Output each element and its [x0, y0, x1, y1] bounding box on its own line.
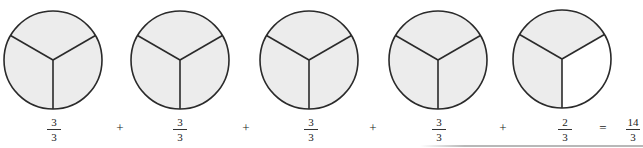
numerator: 3: [42, 116, 66, 128]
denominator: 3: [553, 131, 577, 143]
denominator: 3: [427, 131, 451, 143]
fraction-term-5: 2 3: [553, 116, 577, 143]
fraction-bar: [47, 129, 61, 130]
numerator: 3: [168, 116, 192, 128]
fraction-circle-4: [389, 11, 487, 109]
numerator: 2: [553, 116, 577, 128]
numerator: 3: [299, 116, 323, 128]
fraction-bar: [304, 129, 318, 130]
plus-sign: +: [495, 121, 511, 135]
equals-sign: =: [595, 121, 611, 135]
denominator: 3: [42, 131, 66, 143]
fraction-bar: [173, 129, 187, 130]
numerator: 3: [427, 116, 451, 128]
fraction-bar: [558, 129, 572, 130]
fraction-circle-5: [513, 10, 611, 108]
fraction-bar: [432, 129, 446, 130]
fraction-term-1: 3 3: [42, 116, 66, 143]
fraction-circle-1: [4, 11, 102, 109]
denominator: 3: [299, 131, 323, 143]
numerator: 14: [621, 116, 643, 128]
plus-sign: +: [238, 121, 254, 135]
fraction-term-4: 3 3: [427, 116, 451, 143]
fraction-term-3: 3 3: [299, 116, 323, 143]
denominator: 3: [168, 131, 192, 143]
denominator: 3: [621, 131, 643, 143]
fraction-circle-2: [131, 11, 229, 109]
fraction-circle-3: [260, 11, 358, 109]
bottom-divider: [420, 145, 643, 147]
plus-sign: +: [365, 121, 381, 135]
plus-sign: +: [112, 121, 128, 135]
fraction-result: 14 3: [621, 116, 643, 143]
fraction-bar: [626, 129, 640, 130]
fraction-term-2: 3 3: [168, 116, 192, 143]
